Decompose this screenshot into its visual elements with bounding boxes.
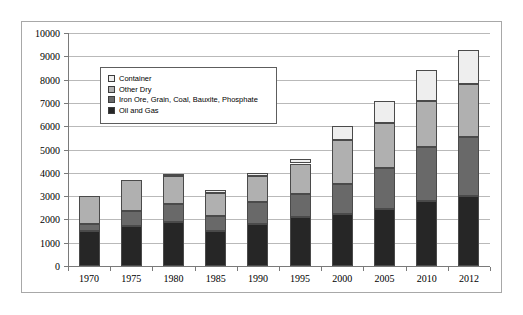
legend-swatch-icon [108, 96, 115, 103]
x-tick-label: 1980 [164, 273, 184, 284]
chart-legend: ContainerOther DryIron Ore, Grain, Coal,… [100, 67, 277, 124]
legend-item[interactable]: Container [108, 75, 269, 83]
chart-frame: 0100020003000400050006000700080009000100… [21, 21, 502, 293]
bar-segment[interactable] [247, 176, 268, 202]
bar-segment[interactable] [458, 84, 479, 136]
bar-segment[interactable] [205, 190, 226, 192]
bar-segment[interactable] [458, 50, 479, 84]
bar-segment[interactable] [79, 224, 100, 231]
bar-stack[interactable] [332, 33, 353, 266]
bar-segment[interactable] [247, 173, 268, 176]
x-tick-label: 1975 [121, 273, 141, 284]
legend-label: Iron Ore, Grain, Coal, Bauxite, Phosphat… [119, 96, 258, 104]
x-tick-mark [363, 267, 364, 271]
y-tick-label: 8000 [20, 74, 60, 85]
legend-swatch-icon [108, 86, 115, 93]
bar-segment[interactable] [290, 217, 311, 266]
x-tick-mark [237, 267, 238, 271]
bar-segment[interactable] [290, 164, 311, 194]
legend-label: Oil and Gas [119, 107, 159, 115]
bar-segment[interactable] [374, 209, 395, 266]
x-tick-label: 2000 [332, 273, 352, 284]
y-axis-line [68, 33, 69, 267]
y-tick-label: 5000 [20, 144, 60, 155]
bar-segment[interactable] [121, 180, 142, 211]
x-tick-mark [490, 267, 491, 271]
bar-stack[interactable] [79, 33, 100, 266]
bar-segment[interactable] [374, 168, 395, 209]
y-tick-label: 6000 [20, 121, 60, 132]
x-tick-label: 1985 [206, 273, 226, 284]
legend-swatch-icon [108, 107, 115, 114]
bar-segment[interactable] [290, 159, 311, 164]
bar-segment[interactable] [416, 201, 437, 266]
x-tick-mark [406, 267, 407, 271]
bar-segment[interactable] [163, 176, 184, 204]
bar-stack[interactable] [458, 33, 479, 266]
y-tick-label: 2000 [20, 214, 60, 225]
legend-item[interactable]: Other Dry [108, 86, 269, 94]
bar-segment[interactable] [205, 193, 226, 216]
y-tick-label: 10000 [20, 28, 60, 39]
x-tick-mark [448, 267, 449, 271]
y-tick-label: 9000 [20, 51, 60, 62]
bar-segment[interactable] [79, 231, 100, 266]
bar-segment[interactable] [332, 140, 353, 184]
bar-segment[interactable] [332, 214, 353, 266]
bar-segment[interactable] [163, 174, 184, 176]
x-tick-label: 2012 [459, 273, 479, 284]
bar-segment[interactable] [121, 211, 142, 226]
legend-label: Container [119, 75, 152, 83]
x-tick-label: 2005 [375, 273, 395, 284]
bar-segment[interactable] [332, 126, 353, 140]
bar-segment[interactable] [416, 147, 437, 201]
y-tick-label: 0 [20, 261, 60, 272]
bar-segment[interactable] [416, 101, 437, 148]
bar-segment[interactable] [163, 204, 184, 221]
bar-stack[interactable] [290, 33, 311, 266]
bar-segment[interactable] [374, 123, 395, 168]
x-tick-mark [152, 267, 153, 271]
bar-segment[interactable] [332, 184, 353, 213]
legend-item[interactable]: Oil and Gas [108, 107, 269, 115]
y-tick-label: 4000 [20, 167, 60, 178]
bar-segment[interactable] [416, 70, 437, 100]
y-tick-label: 7000 [20, 97, 60, 108]
bar-segment[interactable] [290, 194, 311, 217]
x-tick-label: 1995 [290, 273, 310, 284]
bar-segment[interactable] [247, 224, 268, 266]
bar-stack[interactable] [374, 33, 395, 266]
bar-segment[interactable] [205, 231, 226, 266]
bar-segment[interactable] [374, 101, 395, 123]
x-tick-label: 1970 [79, 273, 99, 284]
bar-segment[interactable] [163, 222, 184, 266]
y-tick-label: 1000 [20, 237, 60, 248]
y-tick-label: 3000 [20, 191, 60, 202]
legend-swatch-icon [108, 75, 115, 82]
legend-item[interactable]: Iron Ore, Grain, Coal, Bauxite, Phosphat… [108, 96, 269, 104]
bar-stack[interactable] [416, 33, 437, 266]
x-tick-label: 2010 [417, 273, 437, 284]
bar-segment[interactable] [121, 226, 142, 266]
bar-segment[interactable] [205, 216, 226, 231]
bar-segment[interactable] [458, 196, 479, 266]
x-tick-mark [321, 267, 322, 271]
bar-segment[interactable] [79, 196, 100, 224]
x-tick-mark [110, 267, 111, 271]
x-tick-mark [195, 267, 196, 271]
x-tick-mark [68, 267, 69, 271]
legend-label: Other Dry [119, 86, 152, 94]
x-tick-mark [279, 267, 280, 271]
bar-segment[interactable] [458, 137, 479, 196]
bar-segment[interactable] [247, 202, 268, 224]
x-tick-label: 1990 [248, 273, 268, 284]
